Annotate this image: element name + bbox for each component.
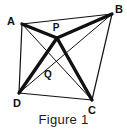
segment-PC [57, 38, 92, 100]
figure-container: A B C D P Q Figure 1 [0, 0, 127, 133]
side-BC [92, 14, 112, 100]
point-label-P: P [53, 22, 60, 33]
side-CD [19, 93, 92, 100]
side-DA [19, 24, 22, 93]
vertex-label-A: A [7, 15, 15, 27]
vertex-label-D: D [13, 97, 21, 109]
point-label-Q: Q [44, 69, 52, 80]
vertex-label-B: B [115, 3, 123, 15]
diagonal-AC [22, 24, 92, 100]
cevian-segments [19, 14, 112, 100]
figure-caption: Figure 1 [0, 112, 127, 127]
